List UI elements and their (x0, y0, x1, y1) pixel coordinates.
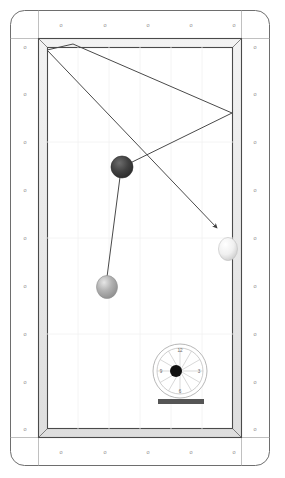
sight-left-9: o (23, 426, 26, 432)
sight-bottom-1: o (59, 449, 62, 455)
sight-top-1: o (59, 22, 62, 28)
sight-left-4: o (23, 187, 26, 193)
sight-right-4: o (253, 187, 256, 193)
object-ball-dark[interactable] (111, 156, 133, 178)
sight-bottom-3: o (146, 449, 149, 455)
sight-right-3: o (253, 139, 256, 145)
sight-right-2: o (253, 91, 256, 97)
sight-left-7: o (23, 331, 26, 337)
sight-right-9: o (253, 426, 256, 432)
shot-diagram-canvas: o o o o o o o o o o o o o o o o o o o o … (0, 0, 285, 478)
sight-left-5: o (23, 235, 26, 241)
dial-numeral-6: 6 (179, 389, 182, 394)
sight-bottom-5: o (232, 449, 235, 455)
cue-ball-white[interactable] (219, 238, 238, 261)
object-ball-gray[interactable] (97, 276, 118, 299)
sight-top-2: o (103, 22, 106, 28)
sight-left-6: o (23, 283, 26, 289)
sight-top-5: o (232, 22, 235, 28)
sight-bottom-4: o (189, 449, 192, 455)
sight-left-3: o (23, 139, 26, 145)
sight-bottom-2: o (103, 449, 106, 455)
sight-top-3: o (146, 22, 149, 28)
dial-numeral-9: 9 (160, 369, 163, 374)
sight-top-4: o (189, 22, 192, 28)
dial-center-dot[interactable] (170, 365, 182, 377)
dial-numeral-12: 12 (177, 348, 183, 353)
sight-left-8: o (23, 379, 26, 385)
diagram-svg: o o o o o o o o o o o o o o o o o o o o … (0, 0, 285, 478)
sight-left-2: o (23, 91, 26, 97)
cue-stick-bar (158, 399, 204, 404)
sight-right-6: o (253, 283, 256, 289)
dial-numeral-3: 3 (198, 369, 201, 374)
sight-right-1: o (253, 44, 256, 50)
sight-left-1: o (23, 44, 26, 50)
sight-right-5: o (253, 235, 256, 241)
sight-right-8: o (253, 379, 256, 385)
sight-right-7: o (253, 331, 256, 337)
